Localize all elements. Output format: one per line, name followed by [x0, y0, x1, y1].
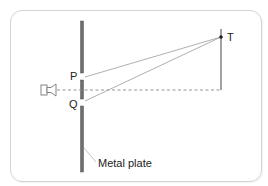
ray-P-to-T: [85, 37, 221, 77]
label-T: T: [227, 31, 234, 43]
label-metal-plate: Metal plate: [98, 157, 152, 169]
plate-lower-segment: [81, 106, 84, 172]
diagram-canvas: P Q T Metal plate: [0, 0, 268, 186]
plate-leader-line: [84, 148, 96, 162]
label-Q: Q: [69, 98, 78, 110]
loudspeaker-icon: [41, 84, 56, 96]
label-P: P: [70, 70, 77, 82]
plate-upper-segment: [81, 21, 84, 73]
point-T-dot: [219, 35, 223, 39]
ray-Q-to-T: [85, 37, 221, 101]
metal-plate: [81, 21, 84, 172]
plate-middle-segment: [81, 80, 84, 99]
